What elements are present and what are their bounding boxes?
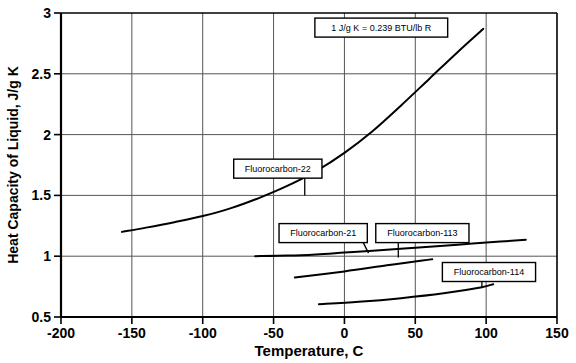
callout-text: 1 J/g K = 0.239 BTU/lb R [331, 23, 431, 33]
x-axis-title: Temperature, C [255, 342, 364, 359]
callout-text: Fluorocarbon-113 [387, 228, 457, 238]
x-tick-label: -50 [263, 325, 283, 341]
y-tick-label: 2.5 [32, 66, 52, 82]
x-tick-label: 150 [545, 325, 569, 341]
series-label-fluorocarbon-114: Fluorocarbon-114 [442, 263, 535, 282]
y-tick-label: 2 [43, 127, 51, 143]
x-tick-label: 100 [474, 325, 498, 341]
x-tick-label: -150 [118, 325, 146, 341]
series-line-fluorocarbon-114 [319, 284, 493, 304]
series-label-fluorocarbon-22: Fluorocarbon-22 [234, 159, 322, 178]
series-line-fluorocarbon-113 [295, 259, 432, 277]
y-tick-label: 1.5 [32, 187, 52, 203]
x-tick-label: 50 [407, 325, 423, 341]
callout-text: Fluorocarbon-22 [245, 164, 311, 174]
x-tick-label: -100 [189, 325, 217, 341]
y-axis-tick-labels: 0.511.522.53 [32, 5, 52, 325]
heat-capacity-line-chart: -200-150-100-50050100150 0.511.522.53 Fl… [0, 0, 576, 363]
annotation-boxes: 1 J/g K = 0.239 BTU/lb R [315, 18, 448, 37]
y-tick-label: 3 [43, 5, 51, 21]
callout-text: Fluorocarbon-114 [454, 267, 524, 277]
x-tick-label: 0 [341, 325, 349, 341]
series-line-fluorocarbon-22 [122, 29, 483, 232]
callout-text: Fluorocarbon-21 [290, 228, 356, 238]
y-tick-label: 1 [43, 248, 51, 264]
series-callout-labels: Fluorocarbon-22Fluorocarbon-21Fluorocarb… [234, 159, 536, 281]
series-label-fluorocarbon-21: Fluorocarbon-21 [279, 224, 367, 243]
y-axis-title: Heat Capacity of Liquid, J/g K [5, 66, 21, 264]
chart-container: -200-150-100-50050100150 0.511.522.53 Fl… [0, 0, 576, 363]
series-label-fluorocarbon-113: Fluorocarbon-113 [376, 224, 469, 243]
x-axis-tick-labels: -200-150-100-50050100150 [47, 325, 569, 341]
y-tick-label: 0.5 [32, 309, 52, 325]
annotation-unit-conversion-note: 1 J/g K = 0.239 BTU/lb R [315, 18, 448, 37]
x-tick-label: -200 [47, 325, 75, 341]
